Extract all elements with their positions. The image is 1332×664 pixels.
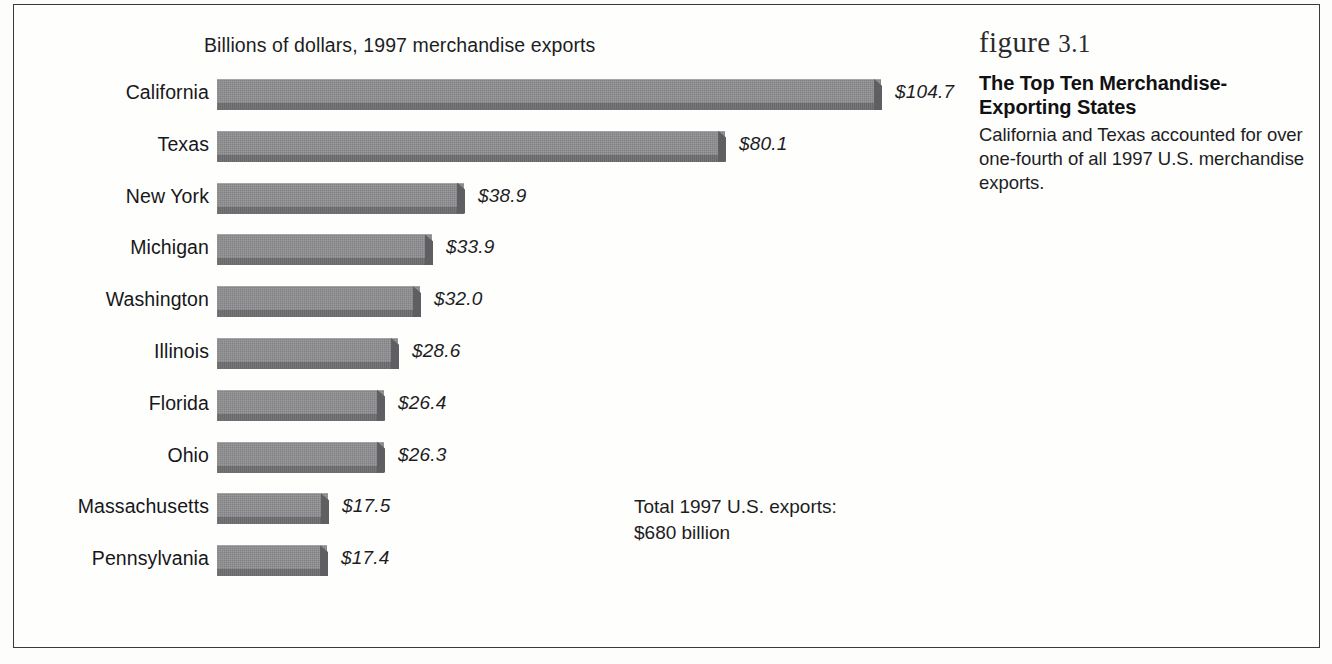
bar-shadow-lip — [217, 362, 398, 369]
bar-category-label: Florida — [0, 392, 209, 415]
bar-face — [217, 338, 398, 363]
bar-row: New York$38.9 — [14, 183, 954, 214]
figure-caption-body: California and Texas accounted for over … — [979, 123, 1309, 195]
bar-row: California$104.7 — [14, 79, 954, 110]
figure-page: Billions of dollars, 1997 merchandise ex… — [0, 0, 1332, 664]
bar — [217, 442, 384, 473]
bar-value-label: $33.9 — [446, 236, 495, 258]
bar-category-label: Washington — [0, 288, 209, 311]
bar-shadow-lip — [217, 414, 384, 421]
bar — [217, 545, 327, 576]
bar-category-label: Massachusetts — [0, 495, 209, 518]
bar — [217, 131, 725, 162]
bar-shadow-lip — [217, 155, 725, 162]
bar-face — [217, 131, 725, 156]
bar-category-label: Michigan — [0, 236, 209, 259]
bar-row: Michigan$33.9 — [14, 234, 954, 265]
figure-number-value: 3.1 — [1058, 30, 1090, 57]
bar-value-label: $26.3 — [398, 444, 447, 466]
bar — [217, 79, 881, 110]
bar-category-label: New York — [0, 185, 209, 208]
bar-value-label: $32.0 — [434, 288, 483, 310]
bar-value-label: $80.1 — [739, 133, 788, 155]
bar-value-label: $26.4 — [398, 392, 447, 414]
bar-face — [217, 79, 881, 104]
chart-title: Billions of dollars, 1997 merchandise ex… — [204, 34, 595, 57]
bar — [217, 390, 384, 421]
figure-caption-title: The Top Ten Merchandise-Exporting States — [979, 71, 1309, 119]
bar-value-label: $17.5 — [342, 495, 391, 517]
bar-shadow-lip — [217, 207, 464, 214]
bar-value-label: $104.7 — [895, 81, 954, 103]
bar — [217, 338, 398, 369]
bar-category-label: Texas — [0, 133, 209, 156]
bar-value-label: $28.6 — [412, 340, 461, 362]
bar-value-label: $38.9 — [478, 185, 527, 207]
total-exports-annotation: Total 1997 U.S. exports: $680 billion — [634, 494, 837, 546]
bar-shadow-lip — [217, 466, 384, 473]
bar — [217, 493, 328, 524]
figure-caption-block: figure 3.1 The Top Ten Merchandise-Expor… — [979, 27, 1309, 195]
figure-frame: Billions of dollars, 1997 merchandise ex… — [13, 4, 1320, 648]
bar-row: Texas$80.1 — [14, 131, 954, 162]
bar-category-label: California — [0, 81, 209, 104]
bar-category-label: Illinois — [0, 340, 209, 363]
bar-row: Pennsylvania$17.4 — [14, 545, 954, 576]
bar-face — [217, 183, 464, 208]
chart-area: Billions of dollars, 1997 merchandise ex… — [14, 5, 954, 649]
bar-category-label: Ohio — [0, 444, 209, 467]
bar-shadow-lip — [217, 103, 881, 110]
bar-face — [217, 545, 327, 570]
bar-value-label: $17.4 — [341, 547, 390, 569]
bar — [217, 286, 420, 317]
bar-shadow-lip — [217, 310, 420, 317]
bar-shadow-lip — [217, 258, 432, 265]
bar-face — [217, 442, 384, 467]
figure-number-word: figure — [979, 26, 1051, 58]
bar-face — [217, 493, 328, 518]
bar-category-label: Pennsylvania — [0, 547, 209, 570]
figure-number: figure 3.1 — [979, 27, 1309, 57]
bar-shadow-lip — [217, 569, 327, 576]
bar-row: Ohio$26.3 — [14, 442, 954, 473]
bar-row: Illinois$28.6 — [14, 338, 954, 369]
bar-shadow-lip — [217, 517, 328, 524]
bar — [217, 183, 464, 214]
bar-row: Washington$32.0 — [14, 286, 954, 317]
bar-face — [217, 390, 384, 415]
bar-row: Florida$26.4 — [14, 390, 954, 421]
bar-face — [217, 286, 420, 311]
bar — [217, 234, 432, 265]
bar-face — [217, 234, 432, 259]
